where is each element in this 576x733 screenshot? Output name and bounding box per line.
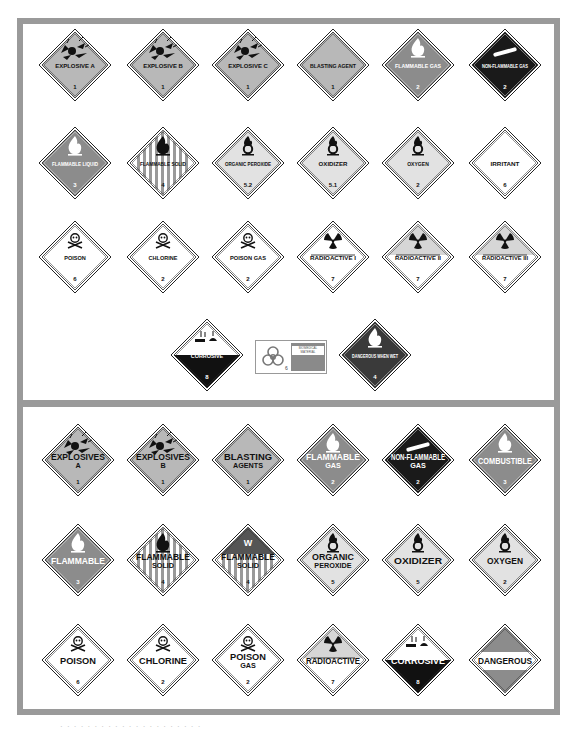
placard-organic-peroxide: ORGANIC PEROXIDE 5.2 [212, 127, 284, 199]
placard-label: POISON GAS [230, 255, 267, 261]
caption: · · · · · · · · · · · · · · · · · · · · … [60, 722, 560, 733]
placard-label: POISON [60, 656, 96, 666]
placard-label: ORGANIC PEROXIDE [225, 161, 272, 167]
placard-poison: POISON 6 [39, 221, 111, 293]
placard-radioactive-iii: RADIOACTIVE III 7 [469, 221, 541, 293]
placard-irritant: IRRITANT 6 [469, 127, 541, 199]
placard-explosive-b: EXPLOSIVE B 1 [127, 29, 199, 101]
placard-radioactive-i: RADIOACTIVE I 7 [297, 221, 369, 293]
svg-text:W: W [244, 538, 253, 548]
placard-flammable-solid: FLAMMABLE SOLID 4 [127, 127, 199, 199]
placard-corrosive: CORROSIVE 8 [171, 319, 243, 391]
placard-blasting-agents: BLASTING AGENTS 1 [212, 424, 284, 496]
placard-dangerous-when-wet: DANGEROUS WHEN WET 4 [339, 319, 411, 391]
placard-corrosive: CORROSIVE 8 [382, 624, 454, 696]
placard-explosives-a: EXPLOSIVES A 1 [42, 424, 114, 496]
placard-poison-gas: POISON GAS 2 [212, 624, 284, 696]
placard-label: COMBUSTIBLE [478, 456, 532, 466]
placard-label: EXPLOSIVE C [228, 63, 268, 69]
placard-label: BLASTING AGENT [310, 63, 356, 69]
placard-oxidizer: OXIDIZER 5.1 [297, 127, 369, 199]
placard-label: OXIDIZER [394, 556, 442, 566]
placard-radioactive-ii: RADIOACTIVE II 7 [382, 221, 454, 293]
placard-dangerous: DANGEROUS [469, 624, 541, 696]
placard-label: CHLORINE [139, 656, 187, 666]
placard-poison: POISON 6 [42, 624, 114, 696]
svg-text:PEROXIDE: PEROXIDE [314, 561, 351, 570]
placard-label: CHLORINE [149, 255, 179, 261]
svg-text:SOLID: SOLID [237, 561, 259, 570]
class-number: 5.2 [244, 182, 253, 188]
placard-flammable: FLAMMABLE 3 [42, 524, 114, 596]
svg-text:GAS: GAS [410, 461, 426, 470]
placard-label: DANGEROUS [478, 656, 532, 666]
placard-flammable-liquid: FLAMMABLE LIQUID 3 [39, 127, 111, 199]
placard-poison-gas: POISON GAS 2 [212, 221, 284, 293]
placard-non-flammable-gas: NON-FLAMMABLE GAS 2 [469, 29, 541, 101]
panel-divider [17, 400, 560, 407]
class-number: 5.1 [329, 182, 338, 188]
placard-oxygen: OXYGEN 2 [469, 524, 541, 596]
placard-organic-peroxide: ORGANIC PEROXIDE 5 [297, 524, 369, 596]
placard-explosive-a: EXPLOSIVE A 1 [39, 29, 111, 101]
biomedical-material-label: BIOMEDICAL MATERIAL 6 [255, 340, 327, 374]
placard-label: CORROSIVE [391, 656, 445, 666]
placard-flammable-gas: FLAMMABLE GAS 2 [297, 424, 369, 496]
placard-label: FLAMMABLE GAS [395, 63, 442, 69]
placard-label: RADIOACTIVE I [310, 255, 357, 261]
bio-label-text: BIOMEDICAL MATERIAL [292, 346, 324, 355]
class-number: 6 [285, 365, 288, 371]
placard-non-flammable-gas: NON-FLAMMABLE GAS 2 [382, 424, 454, 496]
placard-label: CORROSIVE [191, 353, 224, 359]
placard-oxidizer: OXIDIZER 5 [382, 524, 454, 596]
placard-label: FLAMMABLE LIQUID [52, 161, 98, 167]
placard-combustible: COMBUSTIBLE 3 [469, 424, 541, 496]
placard-oxygen: OXYGEN 2 [382, 127, 454, 199]
svg-text:AGENTS: AGENTS [233, 461, 263, 470]
placard-chlorine: CHLORINE 2 [127, 221, 199, 293]
svg-text:GAS: GAS [240, 661, 256, 670]
placard-label: EXPLOSIVE B [143, 63, 183, 69]
placard-explosives-b: EXPLOSIVES B 1 [127, 424, 199, 496]
placard-radioactive: RADIOACTIVE 7 [297, 624, 369, 696]
placard-flammable-solid: FLAMMABLE SOLID 4 [127, 524, 199, 596]
placard-label: RADIOACTIVE III [482, 255, 529, 261]
svg-text:GAS: GAS [325, 461, 341, 470]
w-icon: W [244, 538, 253, 548]
placard-flammable-solid: W FLAMMABLE SOLID 4 [212, 524, 284, 596]
svg-text:SOLID: SOLID [152, 561, 174, 570]
placard-explosive-c: EXPLOSIVE C 1 [212, 29, 284, 101]
placard-label: DANGEROUS WHEN WET [352, 353, 398, 359]
svg-text:B: B [160, 461, 165, 470]
placard-label: OXYGEN [407, 161, 429, 167]
placard-label: IRRITANT [491, 161, 520, 167]
placard-label: OXIDIZER [319, 161, 348, 167]
placard-blasting-agent: BLASTING AGENT 1 [297, 29, 369, 101]
placard-label: RADIOACTIVE II [395, 255, 442, 261]
svg-text:A: A [75, 461, 81, 470]
placard-label: FLAMMABLE [51, 556, 105, 566]
placard-label: NON-FLAMMABLE GAS [482, 63, 529, 69]
placard-label: RADIOACTIVE [306, 656, 360, 666]
placard-chlorine: CHLORINE 2 [127, 624, 199, 696]
placard-label: EXPLOSIVE A [55, 63, 95, 69]
placard-flammable-gas: FLAMMABLE GAS 2 [382, 29, 454, 101]
placard-label: POISON [64, 255, 86, 261]
placard-label: OXYGEN [487, 556, 523, 566]
placard-label: FLAMMABLE SOLID [140, 161, 186, 167]
